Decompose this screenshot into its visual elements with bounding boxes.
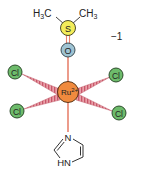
oxygen-atom: O [61, 43, 75, 57]
svg-text:Cl: Cl [11, 68, 19, 78]
imidazole-nh-label: HN [57, 157, 71, 168]
ruthenium-atom: Ru2+ [58, 82, 79, 103]
chloride-upper-left: Cl [8, 65, 22, 79]
chloride-upper-right: Cl [109, 68, 123, 82]
chloride-lower-left: Cl [10, 104, 24, 118]
svg-text:Cl: Cl [13, 107, 21, 117]
complex-charge-label: −1 [111, 31, 123, 42]
sulfur-atom: S [61, 21, 76, 36]
imidazole-n-label: N [65, 132, 72, 143]
chloride-lower-right: Cl [112, 106, 126, 120]
methyl-left-label: H3C [33, 8, 51, 20]
svg-text:O: O [64, 46, 71, 56]
svg-text:Cl: Cl [115, 109, 123, 119]
svg-text:S: S [65, 24, 71, 34]
ruthenium-complex-diagram: H3C CH3 S O −1 Cl Cl Cl Cl Ru2+ [0, 0, 145, 181]
imidazole-ring: N HN [54, 132, 83, 168]
svg-text:Cl: Cl [112, 71, 120, 81]
methyl-right-label: CH3 [79, 8, 97, 20]
